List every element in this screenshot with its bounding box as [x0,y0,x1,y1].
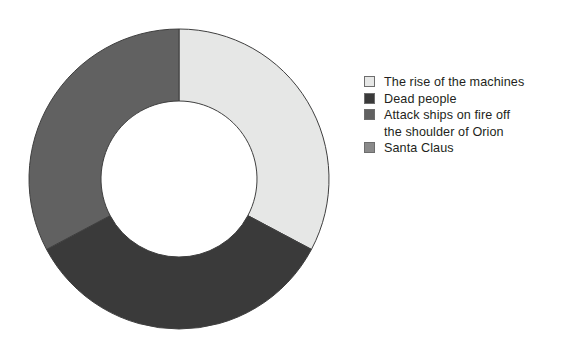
donut-slice[interactable] [179,29,329,249]
legend-swatch-icon [364,109,375,120]
legend-item-label: Santa Claus [384,140,454,157]
legend-swatch-icon [364,142,375,153]
legend-item-dead-people[interactable]: Dead people [364,91,569,108]
legend-swatch-icon [364,76,375,87]
legend-item-label: Dead people [384,91,457,108]
donut-chart-figure: The rise of the machines Dead people Att… [0,0,575,347]
legend-item-the-rise-of-the-machines[interactable]: The rise of the machines [364,74,569,91]
legend-item-label: The rise of the machines [384,74,524,91]
chart-legend: The rise of the machines Dead people Att… [364,74,569,157]
legend-item-santa-claus[interactable]: Santa Claus [364,140,569,157]
donut-plot-area [18,18,340,340]
donut-slice-group [29,29,329,329]
legend-swatch-icon [364,93,375,104]
donut-slice[interactable] [29,29,179,249]
legend-item-attack-ships-on-fire-off-the-shoulder-of-orion[interactable]: Attack ships on fire off the shoulder of… [364,107,569,140]
donut-slice[interactable] [47,216,312,329]
legend-item-label: Attack ships on fire off the shoulder of… [384,107,510,140]
donut-svg [18,18,340,340]
